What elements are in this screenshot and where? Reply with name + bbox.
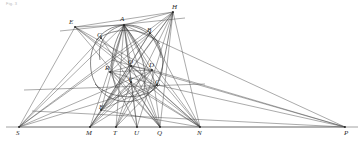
vertex-H	[172, 11, 174, 13]
segment-GN	[101, 38, 200, 127]
point-label-O: O	[128, 59, 133, 66]
segment-EC	[75, 27, 157, 85]
point-label-C: C	[155, 79, 160, 86]
vertex-P	[344, 126, 346, 128]
segment-CP	[157, 85, 345, 127]
vertex-U	[136, 126, 138, 128]
segment-VN	[131, 82, 200, 127]
segment-HQ	[160, 12, 173, 127]
segment-AS	[19, 25, 124, 127]
point-label-D: D	[149, 62, 154, 69]
segment-EQ	[75, 27, 160, 127]
vertex-S	[18, 126, 20, 128]
vertex-T	[115, 126, 117, 128]
vertex-R	[109, 71, 111, 73]
point-label-E: E	[69, 19, 73, 26]
point-label-T: T	[113, 130, 117, 137]
point-label-V: V	[128, 77, 132, 84]
geometry-figure: Fig. 3 EAHGBODRVCFSMTUQNP	[0, 0, 364, 142]
point-label-H: H	[172, 4, 177, 11]
vertex-M	[89, 126, 91, 128]
vertex-A	[123, 24, 125, 26]
point-label-F: F	[99, 104, 103, 111]
segment-VU	[131, 82, 137, 127]
vertex-N	[199, 126, 201, 128]
segments-group	[19, 12, 345, 127]
geometry-canvas	[0, 0, 364, 142]
point-label-B: B	[147, 27, 151, 34]
segment-ES	[19, 27, 75, 127]
segment-VM	[90, 82, 131, 127]
vertex-dots-group	[18, 11, 346, 128]
segment-SG	[19, 38, 101, 127]
point-label-M: M	[86, 130, 92, 137]
point-label-U: U	[134, 130, 139, 137]
vertex-E	[74, 26, 76, 28]
segment-HN	[173, 12, 200, 127]
right-arc	[124, 25, 161, 58]
point-label-N: N	[197, 130, 202, 137]
point-label-S: S	[16, 130, 20, 137]
point-label-Q: Q	[157, 130, 162, 137]
vertex-Q	[159, 126, 161, 128]
point-label-A: A	[120, 16, 124, 23]
point-label-P: P	[344, 130, 348, 137]
point-label-R: R	[105, 65, 109, 72]
segment-AM	[90, 25, 124, 127]
point-label-G: G	[97, 32, 102, 39]
vertex-D	[151, 69, 153, 71]
